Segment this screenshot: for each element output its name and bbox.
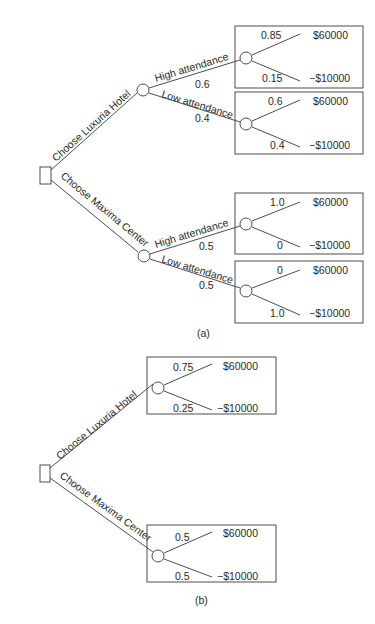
outcome-value: $60000 xyxy=(313,264,348,276)
outcome-prob: 0.15 xyxy=(262,72,283,84)
outcome-value: −$10000 xyxy=(217,402,258,414)
caption-a: (a) xyxy=(197,327,210,339)
decision-tree-figure: Choose Luxuria Hotel High attendance 0.6… xyxy=(0,0,375,624)
outcome-prob: 0.4 xyxy=(270,139,285,151)
outcome-value: −$10000 xyxy=(309,72,350,84)
outcome-value: $60000 xyxy=(313,196,348,208)
outcome-prob: 0.25 xyxy=(173,402,194,414)
branch-prob-maxima-low: 0.5 xyxy=(199,279,214,291)
chance-node xyxy=(240,52,252,64)
outcome-prob: 0 xyxy=(277,264,283,276)
outcome-prob: 0.75 xyxy=(173,361,194,373)
option-line-maxima xyxy=(50,478,153,552)
outcome-prob: 0.85 xyxy=(261,29,282,41)
outcome-value: −$10000 xyxy=(309,139,350,151)
outcome-value: $60000 xyxy=(313,29,348,41)
decision-node xyxy=(40,465,50,482)
outcome-line xyxy=(252,270,300,288)
caption-b: (b) xyxy=(195,594,208,606)
branch-prob-maxima-high: 0.5 xyxy=(199,240,214,252)
chance-node xyxy=(152,382,164,394)
outcome-prob: 0 xyxy=(277,239,283,251)
chance-node xyxy=(240,118,252,130)
chance-node-luxuria xyxy=(137,84,149,96)
outcome-prob: 1.0 xyxy=(270,196,285,208)
outcome-line xyxy=(252,227,300,247)
outcome-value: −$10000 xyxy=(309,307,350,319)
diagram-a: Choose Luxuria Hotel High attendance 0.6… xyxy=(40,26,363,339)
branch-prob-luxuria-low: 0.4 xyxy=(195,112,210,124)
decision-node xyxy=(40,167,51,184)
branch-label-maxima-low: Low attendance xyxy=(160,252,235,285)
diagram-b: Choose Luxuria Hotel 0.75 0.25 $60000 −$… xyxy=(40,357,276,606)
option-label-maxima: Choose Maxima Center xyxy=(59,169,152,249)
chance-node-maxima xyxy=(138,250,150,262)
option-line-maxima xyxy=(51,180,138,252)
outcome-value: $60000 xyxy=(313,95,348,107)
chance-node xyxy=(240,218,252,230)
option-label-maxima: Choose Maxima Center xyxy=(58,469,155,544)
outcome-prob: 0.5 xyxy=(175,570,190,582)
outcome-prob: 0.5 xyxy=(175,531,190,543)
outcome-prob: 1.0 xyxy=(270,307,285,319)
branch-prob-luxuria-high: 0.6 xyxy=(195,78,210,90)
outcome-prob: 0.6 xyxy=(268,95,283,107)
chance-node xyxy=(152,550,164,562)
outcome-value: −$10000 xyxy=(217,570,258,582)
chance-node xyxy=(240,285,252,297)
outcome-value: $60000 xyxy=(223,360,258,372)
outcome-value: $60000 xyxy=(223,527,258,539)
outcome-value: −$10000 xyxy=(309,239,350,251)
option-line-luxuria xyxy=(51,93,137,170)
option-label-luxuria: Choose Luxuria Hotel xyxy=(49,87,132,163)
option-label-luxuria: Choose Luxuria Hotel xyxy=(54,388,140,461)
